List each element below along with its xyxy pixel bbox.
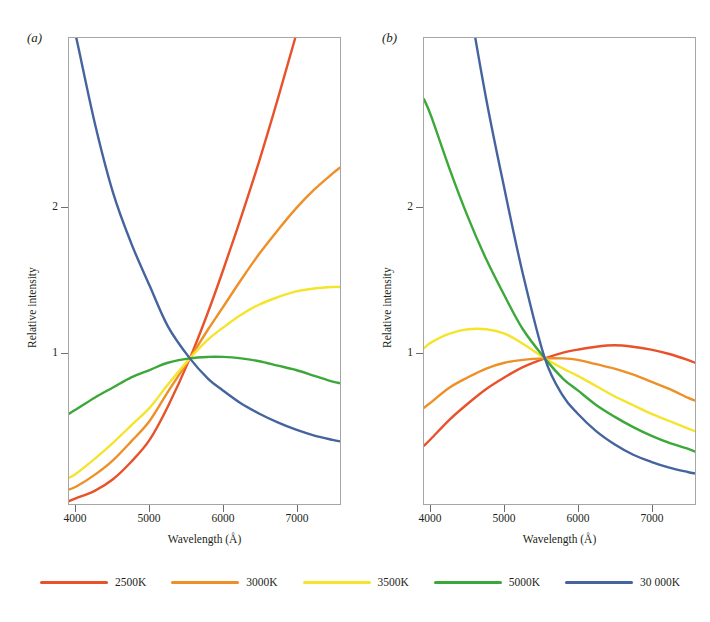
legend-item: 30 000K (565, 576, 680, 588)
legend-color-swatch (40, 581, 108, 584)
panel-a-xtick-mark-7000 (297, 505, 298, 512)
panel-b-xtick-label-6000: 6000 (548, 512, 608, 524)
panel-b-label: (b) (382, 30, 397, 46)
panel-b-ytick-mark-2 (416, 207, 423, 208)
legend-item: 5000K (434, 576, 540, 588)
panel-a-plot-area (68, 37, 341, 505)
panel-b-plot-area (423, 37, 696, 505)
curve-5000K (424, 99, 695, 451)
panel-b-ylabel: Relative intensity (381, 267, 393, 348)
legend-color-swatch (171, 581, 239, 584)
panel-a-ytick-mark-1 (61, 353, 68, 354)
panel-b-ytick-mark-1 (416, 353, 423, 354)
panel-b-xtick-mark-6000 (578, 505, 579, 512)
curve-3000K (69, 168, 340, 490)
panel-a-ytick-label-1: 1 (36, 346, 58, 358)
panel-b-ytick-label-1: 1 (391, 346, 413, 358)
legend-item: 3000K (171, 576, 277, 588)
curve-30-000K (424, 38, 695, 473)
legend-label: 3500K (378, 576, 409, 588)
panel-b-xtick-label-5000: 5000 (474, 512, 534, 524)
panel-a-xtick-label-4000: 4000 (45, 512, 105, 524)
panel-a-xtick-label-6000: 6000 (193, 512, 253, 524)
panel-a-xtick-mark-4000 (75, 505, 76, 512)
panel-a-xlabel: Wavelength (Å) (68, 533, 341, 545)
panel-a-ylabel: Relative intensity (26, 267, 38, 348)
figure-blackbody-spectra: (a) 2 1 Relative intensity 4000 5000 600… (0, 0, 710, 622)
legend: 2500K3000K3500K5000K30 000K (0, 560, 710, 622)
panel-b-xtick-mark-4000 (430, 505, 431, 512)
legend-item: 3500K (303, 576, 409, 588)
panel-a-ytick-mark-2 (61, 207, 68, 208)
curve-30-000K (69, 38, 340, 441)
legend-label: 3000K (246, 576, 277, 588)
panel-b-xtick-label-7000: 7000 (622, 512, 682, 524)
panel-b-curves (424, 38, 695, 504)
curve-2500K (424, 345, 695, 445)
legend-color-swatch (565, 581, 633, 584)
panel-a: (a) 2 1 Relative intensity 4000 5000 600… (0, 0, 355, 560)
legend-color-swatch (434, 581, 502, 584)
panel-b-xtick-mark-7000 (652, 505, 653, 512)
panel-a-label: (a) (27, 30, 42, 46)
panel-a-xtick-mark-6000 (223, 505, 224, 512)
panel-a-xtick-label-5000: 5000 (119, 512, 179, 524)
legend-label: 2500K (115, 576, 146, 588)
legend-label: 5000K (509, 576, 540, 588)
panel-b-xtick-mark-5000 (504, 505, 505, 512)
legend-item: 2500K (40, 576, 146, 588)
panel-b-xlabel: Wavelength (Å) (423, 533, 696, 545)
panel-a-xtick-mark-5000 (149, 505, 150, 512)
panel-b: (b) 2 1 Relative intensity 4000 5000 600… (355, 0, 710, 560)
legend-row: 2500K3000K3500K5000K30 000K (40, 568, 680, 596)
curve-5000K (69, 357, 340, 414)
curve-3500K (69, 287, 340, 478)
panel-a-curves (69, 38, 340, 504)
legend-label: 30 000K (640, 576, 680, 588)
legend-color-swatch (303, 581, 371, 584)
panel-b-xtick-label-4000: 4000 (400, 512, 460, 524)
panel-a-xtick-label-7000: 7000 (267, 512, 327, 524)
panel-a-ytick-label-2: 2 (36, 200, 58, 212)
panel-b-ytick-label-2: 2 (391, 200, 413, 212)
